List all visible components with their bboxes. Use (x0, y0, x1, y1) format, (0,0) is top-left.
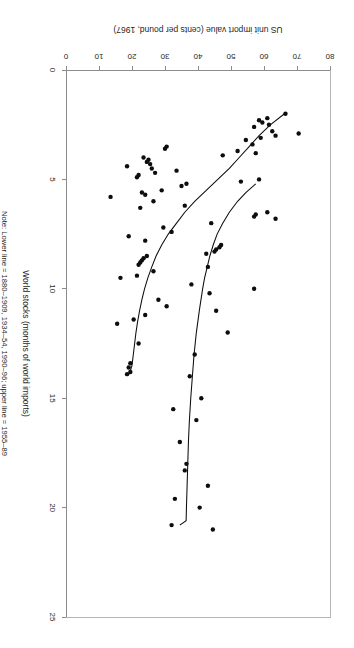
y-tick-label: 30 (160, 52, 169, 61)
data-point (135, 273, 139, 277)
y-tick-label: 70 (292, 52, 301, 61)
data-point (206, 484, 210, 488)
data-point (189, 282, 193, 286)
y-tick-label: 50 (226, 52, 235, 61)
data-point (131, 317, 135, 321)
data-point (135, 175, 139, 179)
data-point (265, 210, 269, 214)
data-point (206, 265, 210, 269)
data-point (214, 308, 218, 312)
data-point (143, 238, 147, 242)
data-point (151, 269, 155, 273)
data-point (118, 276, 122, 280)
data-point (143, 313, 147, 317)
data-point (226, 330, 230, 334)
data-point (151, 199, 155, 203)
data-point (211, 527, 215, 531)
y-tick-label: 20 (127, 52, 136, 61)
data-point (169, 523, 173, 527)
data-point (270, 129, 274, 133)
data-point (169, 230, 173, 234)
data-point (184, 182, 188, 186)
data-point (273, 217, 277, 221)
data-point (178, 440, 182, 444)
data-point (127, 365, 131, 369)
scatter-plot: 010203040506070800510152025World stocks … (0, 0, 354, 648)
y-tick-label: 80 (325, 52, 334, 61)
x-tick-label: 0 (48, 68, 57, 73)
data-point (188, 374, 192, 378)
data-point (108, 195, 112, 199)
data-point (136, 341, 140, 345)
data-point (212, 249, 216, 253)
data-point (161, 225, 165, 229)
fit-curve (180, 184, 256, 525)
data-point (174, 168, 178, 172)
data-point (138, 206, 142, 210)
data-point (204, 252, 208, 256)
data-point (128, 361, 132, 365)
data-point (136, 263, 140, 267)
data-point (197, 505, 201, 509)
x-axis-title-text: World stocks (months of world imports) (21, 270, 31, 417)
chart-figure: 010203040506070800510152025World stocks … (0, 0, 354, 648)
data-point (173, 497, 177, 501)
data-point (250, 142, 254, 146)
data-point (283, 112, 287, 116)
data-point (143, 193, 147, 197)
data-point (115, 322, 119, 326)
data-point (296, 131, 300, 135)
y-tick-label: 60 (259, 52, 268, 61)
data-point (148, 162, 152, 166)
data-point (127, 234, 131, 238)
data-point (209, 221, 213, 225)
fit-curve (129, 114, 284, 374)
data-point (193, 352, 197, 356)
data-point (163, 147, 167, 151)
y-tick-label: 10 (94, 52, 103, 61)
data-point (199, 396, 203, 400)
data-point (184, 462, 188, 466)
data-point (260, 120, 264, 124)
data-point (150, 166, 154, 170)
y-axis-title-text: US unit import value (cents per pound, 1… (113, 25, 282, 35)
data-point (259, 136, 263, 140)
data-point (235, 149, 239, 153)
data-point (207, 291, 211, 295)
data-point (160, 188, 164, 192)
data-point (257, 177, 261, 181)
data-point (179, 184, 183, 188)
x-tick-label: 10 (48, 284, 57, 293)
data-point (267, 123, 271, 127)
data-point (183, 468, 187, 472)
data-point (156, 298, 160, 302)
scanned-page: 010203040506070800510152025World stocks … (0, 0, 354, 648)
data-point (252, 214, 256, 218)
x-tick-label: 5 (48, 177, 57, 182)
data-point (125, 164, 129, 168)
y-tick-label: 40 (193, 52, 202, 61)
figure-note-text: Note: Lower line = 1880–1909, 1934–54, 1… (0, 211, 9, 456)
x-tick-label: 25 (48, 613, 57, 622)
data-point (221, 153, 225, 157)
x-tick-label: 15 (48, 394, 57, 403)
x-tick-label: 20 (48, 503, 57, 512)
data-point (183, 203, 187, 207)
plot-frame (66, 70, 330, 617)
data-point (239, 179, 243, 183)
data-point (194, 418, 198, 422)
data-point (244, 138, 248, 142)
y-tick-label: 0 (63, 52, 68, 61)
data-point (265, 116, 269, 120)
data-point (273, 133, 277, 137)
data-point (153, 171, 157, 175)
data-point (252, 125, 256, 129)
data-point (254, 151, 258, 155)
data-point (141, 155, 145, 159)
data-point (252, 287, 256, 291)
data-point (164, 304, 168, 308)
data-point (171, 407, 175, 411)
data-point (125, 372, 129, 376)
